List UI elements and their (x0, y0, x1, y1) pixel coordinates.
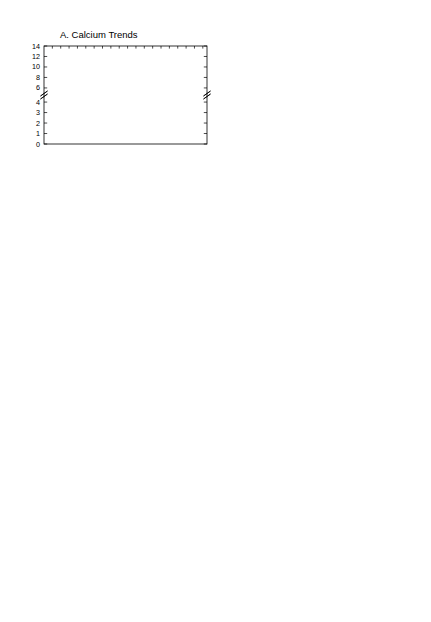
ytick-label-A-up-8: 1 (36, 129, 40, 138)
ytick-label-A-up-7: 2 (36, 119, 40, 128)
panel-A-upper-plot: 1412108643210 (32, 42, 211, 149)
upper-axes-frame-A (44, 46, 207, 144)
ytick-label-A-up-3: 8 (36, 73, 40, 82)
figure-container: A. Calcium Trends1412108643210 (0, 0, 431, 622)
ytick-label-A-up-9: 0 (36, 140, 40, 149)
panel-title-A: A. Calcium Trends (60, 29, 138, 40)
ytick-label-A-up-0: 14 (32, 42, 40, 51)
panel-A: A. Calcium Trends1412108643210 (32, 29, 211, 149)
trends-figure: A. Calcium Trends1412108643210 (0, 0, 431, 622)
ytick-label-A-up-4: 6 (36, 83, 40, 92)
ytick-label-A-up-6: 3 (36, 108, 40, 117)
ytick-label-A-up-2: 10 (32, 62, 40, 71)
ytick-label-A-up-1: 12 (32, 52, 40, 61)
ytick-label-A-up-5: 4 (36, 98, 40, 107)
